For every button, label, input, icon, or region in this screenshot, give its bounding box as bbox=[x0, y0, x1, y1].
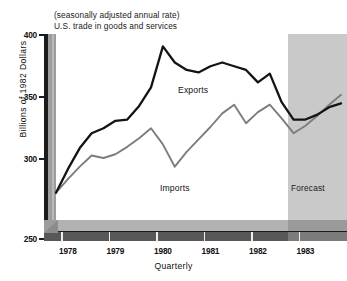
exports-series-label: Exports bbox=[178, 85, 208, 95]
forecast-region-label: Forecast bbox=[291, 183, 325, 193]
exports-line bbox=[56, 46, 341, 192]
imports-series-label: Imports bbox=[160, 183, 190, 193]
chart-plot-lines bbox=[0, 0, 347, 281]
imports-line bbox=[56, 95, 341, 193]
chart-container: 400 350 300 250 197819791980198119821983… bbox=[0, 0, 347, 281]
